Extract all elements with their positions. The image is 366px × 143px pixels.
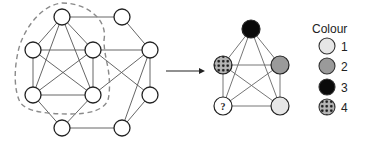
colour-legend: Colour 1234 xyxy=(312,22,348,115)
graph-node xyxy=(25,42,41,58)
legend-label-4: 4 xyxy=(341,101,348,115)
legend-swatch-2 xyxy=(319,58,335,74)
legend-label-2: 2 xyxy=(341,60,348,74)
graph-node xyxy=(114,120,130,136)
graph-node xyxy=(85,87,101,103)
graph-coloring-diagram: ? Colour 1234 xyxy=(0,0,366,143)
colour-1-node xyxy=(271,97,289,115)
unknown-colour-label: ? xyxy=(221,101,226,112)
graph-node xyxy=(54,9,70,25)
legend-swatch-4 xyxy=(319,99,335,115)
colour-4-node xyxy=(214,56,232,74)
right-graph-nodes: ? xyxy=(214,20,289,115)
transform-arrow xyxy=(166,68,205,74)
legend-title: Colour xyxy=(312,22,347,36)
left-graph-nodes xyxy=(25,9,158,136)
colour-3-node xyxy=(242,20,260,38)
legend-swatch-1 xyxy=(319,38,335,54)
graph-node xyxy=(54,120,70,136)
colour-2-node xyxy=(271,56,289,74)
graph-node xyxy=(25,87,41,103)
legend-swatch-3 xyxy=(319,79,335,95)
graph-node xyxy=(85,42,101,58)
graph-node xyxy=(142,42,158,58)
graph-node xyxy=(142,87,158,103)
legend-label-1: 1 xyxy=(341,40,348,54)
legend-label-3: 3 xyxy=(341,81,348,95)
graph-node xyxy=(114,9,130,25)
